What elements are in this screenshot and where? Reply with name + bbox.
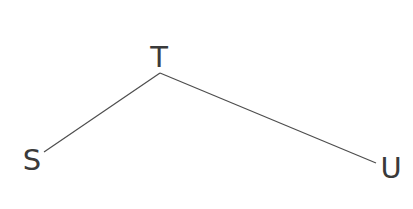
edge-t-u: [160, 73, 376, 163]
edge-t-s: [44, 73, 160, 152]
node-label-u: U: [380, 151, 401, 185]
tree-diagram: S T U: [0, 0, 413, 209]
node-label-s: S: [23, 143, 41, 177]
node-label-t: T: [149, 40, 168, 74]
